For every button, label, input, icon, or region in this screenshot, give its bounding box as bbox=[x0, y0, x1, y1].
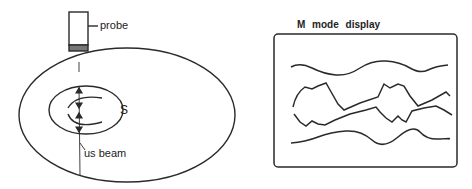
left-cross-section bbox=[19, 12, 235, 182]
probe-label: probe bbox=[100, 20, 128, 31]
m-mode-display bbox=[274, 34, 457, 167]
trace-4 bbox=[291, 129, 449, 144]
trace-3 bbox=[294, 106, 452, 126]
structure-label: S bbox=[120, 104, 128, 116]
trace-2 bbox=[293, 83, 450, 110]
probe bbox=[69, 12, 88, 45]
inner-arc-top bbox=[68, 97, 102, 108]
diagram-canvas bbox=[0, 0, 472, 189]
trace-1 bbox=[291, 61, 448, 75]
probe-tip bbox=[69, 45, 88, 51]
inner-arc-bottom bbox=[68, 114, 102, 125]
us-beam-label: us beam bbox=[84, 148, 126, 159]
display-title: M mode display bbox=[297, 20, 380, 30]
structure-s-outline bbox=[49, 86, 123, 134]
